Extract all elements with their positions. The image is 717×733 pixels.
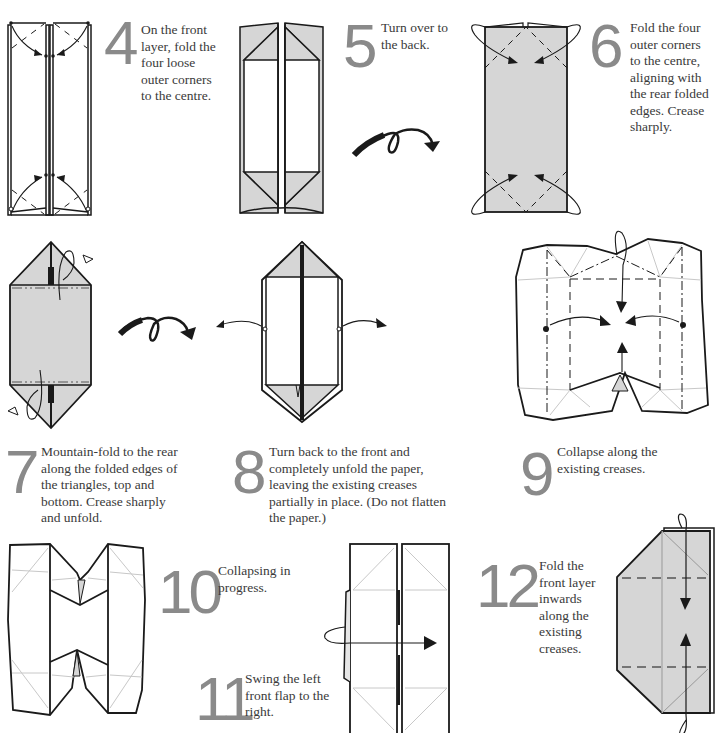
turn-over-arrow-icon (350, 120, 450, 170)
step-number: 10 (158, 561, 219, 623)
step-12-figure (600, 520, 717, 727)
step-11-figure (320, 530, 470, 727)
turn-over-arrow-icon (118, 310, 208, 360)
step-10-figure (0, 520, 160, 727)
step-number: 7 (5, 441, 39, 503)
step-4-figure (0, 0, 100, 220)
step-instruction: Turn back to the front and completely un… (269, 444, 446, 527)
step-7-figure (0, 225, 110, 435)
step-number: 6 (589, 15, 623, 77)
step-instruction: Fold the four outer corners to the centr… (630, 20, 709, 136)
step-instruction: Turn over to the back. (381, 20, 448, 53)
step-instruction: On the front layer, fold the four loose … (141, 22, 216, 105)
step-instruction: Collapse along the existing creases. (557, 444, 657, 477)
step-instruction: Mountain-fold to the rear along the fold… (41, 444, 178, 527)
step-instruction: Swing the left front flap to the right. (245, 671, 329, 721)
step-instruction: Fold the front layer inwards along the e… (539, 558, 596, 657)
step-6-figure (460, 0, 590, 220)
step-number: 9 (520, 443, 554, 505)
step-number: 5 (343, 15, 377, 77)
step-8-figure (230, 225, 410, 435)
step-number: 8 (232, 441, 266, 503)
step-number: 11 (195, 668, 251, 730)
step-number: 12 (476, 555, 537, 617)
step-instruction: Collapsing in progress. (218, 563, 290, 596)
step-number: 4 (104, 12, 138, 74)
step-9-figure (490, 225, 717, 435)
step-5-figure (230, 0, 340, 220)
